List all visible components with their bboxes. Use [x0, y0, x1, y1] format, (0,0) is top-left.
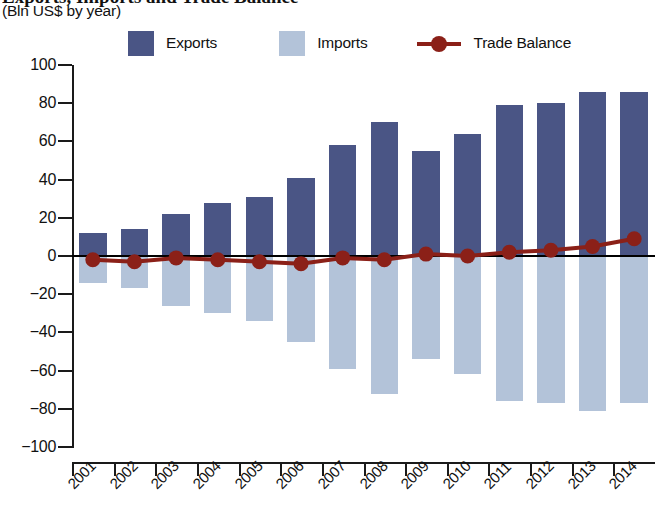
y-tick: [58, 331, 72, 333]
y-axis-label: 40: [10, 171, 56, 189]
bar-imports: [121, 256, 148, 288]
y-tick: [58, 64, 72, 66]
y-axis-label: −60: [10, 362, 56, 380]
zero-line: [72, 255, 655, 257]
y-tick: [58, 140, 72, 142]
bar-exports: [412, 151, 439, 256]
bar-imports: [620, 256, 647, 403]
y-tick: [58, 408, 72, 410]
y-axis-label: −20: [10, 285, 56, 303]
bar-exports: [246, 197, 273, 256]
y-axis-label: −40: [10, 323, 56, 341]
y-tick: [58, 446, 72, 448]
bar-imports: [537, 256, 564, 403]
y-tick: [58, 255, 72, 257]
bar-exports: [454, 134, 481, 256]
y-axis-label: −80: [10, 400, 56, 418]
y-axis-label: 80: [10, 94, 56, 112]
bar-imports: [329, 256, 356, 369]
bar-exports: [537, 103, 564, 256]
y-axis-label: 0: [10, 247, 56, 265]
y-tick: [58, 179, 72, 181]
y-axis-label: 60: [10, 132, 56, 150]
bar-imports: [287, 256, 314, 342]
bar-exports: [496, 105, 523, 256]
bar-imports: [246, 256, 273, 321]
bar-imports: [371, 256, 398, 394]
plot-area: 100806040200−20−40−60−80−100200120022003…: [0, 0, 663, 519]
y-tick: [58, 293, 72, 295]
y-tick: [58, 102, 72, 104]
bar-imports: [496, 256, 523, 401]
bar-imports: [412, 256, 439, 359]
bar-imports: [204, 256, 231, 313]
y-axis-label: 20: [10, 209, 56, 227]
bar-exports: [162, 214, 189, 256]
bar-imports: [454, 256, 481, 374]
y-tick: [58, 370, 72, 372]
y-tick: [58, 217, 72, 219]
trade-chart: Exports, Imports and Trade Balance (Bln …: [0, 0, 663, 519]
bar-exports: [121, 229, 148, 256]
bar-exports: [287, 178, 314, 256]
bar-exports: [329, 145, 356, 256]
y-axis-label: 100: [10, 56, 56, 74]
bar-imports: [79, 256, 106, 283]
bar-exports: [371, 122, 398, 256]
y-axis-label: −100: [10, 438, 56, 456]
bar-imports: [579, 256, 606, 411]
bar-exports: [204, 203, 231, 256]
bar-imports: [162, 256, 189, 306]
bar-exports: [579, 92, 606, 256]
bar-exports: [620, 92, 647, 256]
bar-exports: [79, 233, 106, 256]
